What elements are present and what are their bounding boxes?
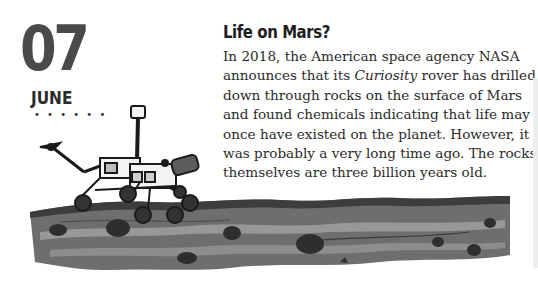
mars-illustration [0, 0, 538, 286]
calendar-page: 07 JUNE • • • • • • Life on Mars? In 201… [0, 0, 538, 286]
page-edge [533, 78, 538, 268]
terrain-icon [30, 196, 510, 270]
